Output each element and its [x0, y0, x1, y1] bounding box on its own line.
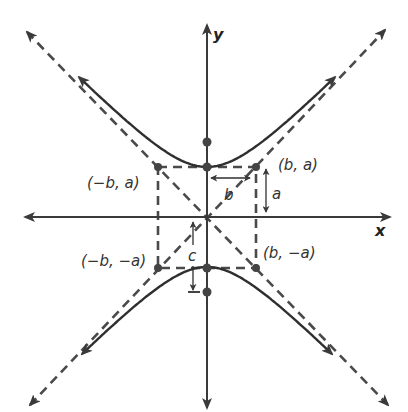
label-c: c	[188, 247, 197, 265]
corner-b-a-point	[252, 163, 260, 171]
hyperbola-diagram: y x (b, a) (−b, a) (−b, −a) (b, −a) a b …	[0, 0, 408, 412]
y-axis-label: y	[213, 25, 224, 44]
label-b: b	[224, 186, 234, 204]
x-axis-label: x	[374, 221, 386, 240]
focus-upper-point	[203, 138, 212, 147]
corner-neg-b-neg-a-point	[154, 264, 162, 272]
vertex-upper-point	[203, 163, 212, 172]
label-b-a: (b, a)	[278, 156, 318, 174]
label-neg-b-neg-a: (−b, −a)	[81, 252, 146, 270]
label-a: a	[272, 185, 281, 203]
label-b-neg-a: (b, −a)	[263, 244, 316, 262]
corner-neg-b-a-point	[154, 163, 162, 171]
vertex-lower-point	[203, 264, 212, 273]
corner-b-neg-a-point	[252, 264, 260, 272]
focus-lower-point	[203, 288, 212, 297]
label-neg-b-a: (−b, a)	[87, 174, 140, 192]
